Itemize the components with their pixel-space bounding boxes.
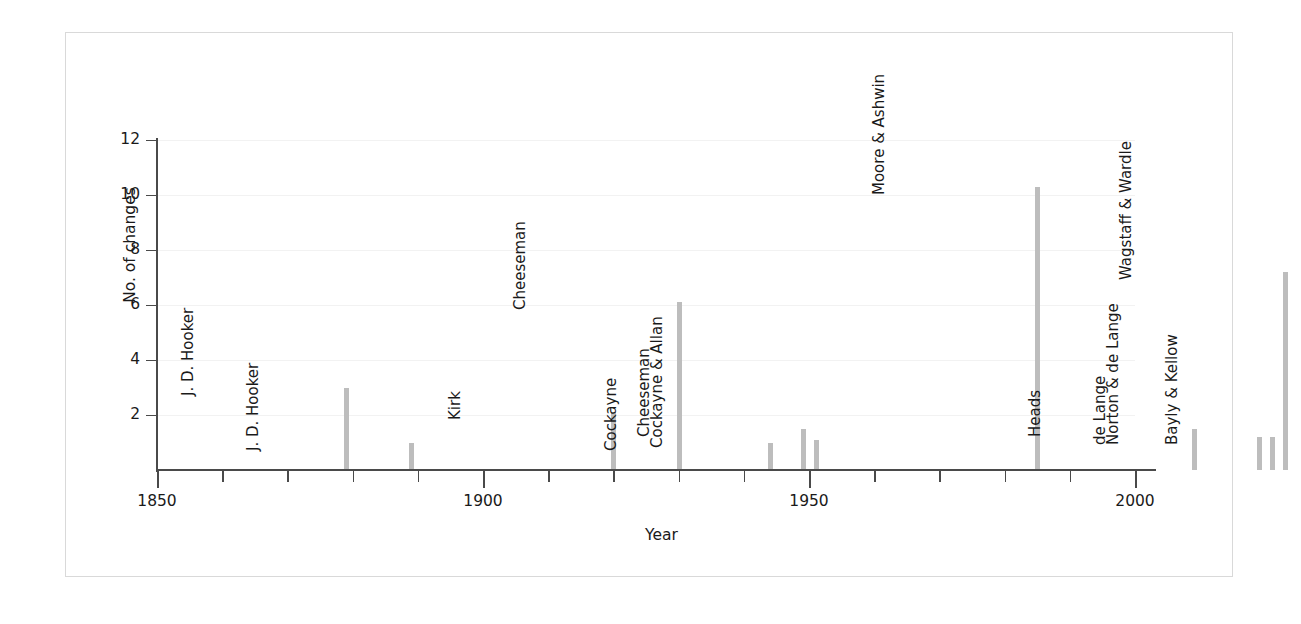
y-axis-tick	[146, 305, 157, 306]
x-axis-line	[156, 469, 1156, 471]
x-axis-tick-minor	[679, 471, 680, 482]
y-axis-tick	[146, 140, 157, 141]
y-axis-tick-label-wrap: 2	[105, 405, 140, 425]
bar-label: Norton & de Lange	[1106, 303, 1121, 445]
y-axis-tick-label: 6	[130, 295, 140, 313]
bar-label: Cockayne & Allan	[650, 316, 665, 448]
y-axis-tick-label: 12	[120, 130, 140, 148]
bar	[1192, 429, 1197, 470]
x-axis-tick-major	[809, 471, 811, 488]
bar	[1257, 437, 1262, 470]
y-axis-tick-label-wrap: 4	[105, 350, 140, 370]
y-gridline	[157, 250, 1135, 251]
bar	[409, 443, 414, 471]
bar	[801, 429, 806, 470]
x-axis-tick-minor	[418, 471, 419, 482]
y-axis-tick-label-wrap: 12	[105, 130, 140, 150]
bar	[344, 388, 349, 471]
bar	[1270, 437, 1275, 470]
y-axis-tick-label-wrap: 8	[105, 240, 140, 260]
y-axis-tick	[146, 250, 157, 251]
y-axis-tick-label: 4	[130, 350, 140, 368]
x-axis-title: Year	[0, 526, 1301, 544]
bar-label: Heads	[1028, 390, 1043, 437]
bar	[1283, 272, 1288, 470]
y-axis-tick-label: 2	[130, 405, 140, 423]
x-axis-tick-label: 1950	[789, 492, 828, 510]
x-axis-tick-major	[483, 471, 485, 488]
bar-label: Cockayne	[604, 377, 619, 450]
x-axis-tick-minor	[874, 471, 875, 482]
bar	[677, 302, 682, 470]
x-axis-tick-minor	[353, 471, 354, 482]
bar	[814, 440, 819, 470]
bar	[768, 443, 773, 471]
x-axis-tick-minor	[1005, 471, 1006, 482]
x-axis-title-text: Year	[645, 526, 678, 544]
bar-label: Wagstaff & Wardle	[1119, 141, 1134, 280]
x-axis-tick-minor	[613, 471, 614, 482]
y-axis-tick	[146, 360, 157, 361]
x-axis-tick-label: 1850	[137, 492, 176, 510]
x-axis-tick-minor	[222, 471, 223, 482]
y-gridline	[157, 195, 1135, 196]
y-gridline	[157, 140, 1135, 141]
x-axis-tick-minor	[1070, 471, 1071, 482]
bar-label: J. D. Hooker	[246, 362, 261, 450]
bar-label: J. D. Hooker	[181, 307, 196, 395]
y-axis-tick-label: 8	[130, 240, 140, 258]
x-axis-tick-major	[1135, 471, 1137, 488]
y-axis-tick	[146, 415, 157, 416]
x-axis-tick-minor	[287, 471, 288, 482]
bar-label: Bayly & Kellow	[1165, 334, 1180, 445]
y-axis-tick-label: 10	[120, 185, 140, 203]
y-axis-tick	[146, 195, 157, 196]
x-axis-tick-major	[157, 471, 159, 488]
y-gridline	[157, 305, 1135, 306]
x-axis-tick-minor	[744, 471, 745, 482]
x-axis-tick-label: 1900	[463, 492, 502, 510]
y-axis-tick-label-wrap: 6	[105, 295, 140, 315]
y-axis-tick-label-wrap: 10	[105, 185, 140, 205]
chart-figure: No. of changes Year 24681012185019001950…	[0, 0, 1301, 624]
bar-label: Cheeseman	[513, 221, 528, 310]
x-axis-tick-minor	[548, 471, 549, 482]
x-axis-tick-label: 2000	[1115, 492, 1154, 510]
bar-label: Kirk	[448, 391, 463, 420]
x-axis-tick-minor	[939, 471, 940, 482]
bar-label: Moore & Ashwin	[872, 74, 887, 195]
